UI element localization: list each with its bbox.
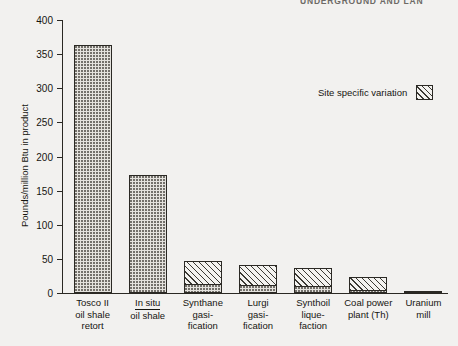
x-axis-label-line: retort [51, 320, 135, 332]
running-head: UNDERGROUND AND LAN [300, 0, 458, 6]
bar-segment-site-specific-variation [239, 265, 277, 286]
bar-2 [129, 175, 167, 293]
bar-7 [404, 291, 442, 293]
y-tick-mark [57, 54, 63, 55]
x-axis-label-line: Uranium [381, 297, 458, 309]
bar-6 [349, 277, 387, 293]
y-tick-label: 300 [36, 83, 53, 94]
y-tick-mark [57, 225, 63, 226]
y-tick-mark [57, 259, 63, 260]
bar-3 [184, 261, 222, 293]
y-axis-title: Pounds/million Btu in product [19, 66, 30, 266]
bar-segment-site-specific-variation [294, 268, 332, 287]
bar-segment-site-specific-variation [184, 261, 222, 285]
x-axis-label-7: Uraniummill [381, 297, 458, 320]
y-tick-mark [57, 122, 63, 123]
y-tick-mark [57, 191, 63, 192]
legend-label-site-specific-variation: Site specific variation [318, 87, 407, 98]
bar-5 [294, 268, 332, 293]
bar-segment-site-specific-variation [349, 277, 387, 291]
y-tick-mark [57, 20, 63, 21]
bar-4 [239, 265, 277, 293]
bar-segment-base [129, 175, 167, 293]
y-tick-mark [57, 293, 63, 294]
x-axis-label-line: faction [271, 320, 355, 332]
figure-container: UNDERGROUND AND LAN Pounds/million Btu i… [0, 0, 458, 346]
x-axis-label-line: In situ [135, 297, 160, 310]
legend: Site specific variation [318, 85, 433, 100]
y-tick-mark [57, 157, 63, 158]
y-tick-label: 150 [36, 185, 53, 196]
bar-segment-base [184, 284, 222, 293]
y-tick-label: 400 [36, 15, 53, 26]
bar-segment-base [74, 45, 112, 293]
x-axis-label-line: mill [381, 309, 458, 321]
bar-segment-base [239, 285, 277, 293]
y-tick-label: 50 [42, 253, 53, 264]
bar-1 [74, 45, 112, 293]
bar-segment-base [294, 286, 332, 294]
bar-segment-base [404, 291, 442, 293]
plot-area: 050100150200250300350400 Tosco IIoil sha… [62, 20, 448, 293]
legend-swatch-site-specific-variation [416, 85, 433, 100]
y-tick-label: 200 [36, 151, 53, 162]
y-tick-mark [57, 88, 63, 89]
x-axis-line [58, 293, 448, 294]
y-tick-label: 250 [36, 117, 53, 128]
y-tick-label: 350 [36, 49, 53, 60]
y-tick-label: 100 [36, 219, 53, 230]
